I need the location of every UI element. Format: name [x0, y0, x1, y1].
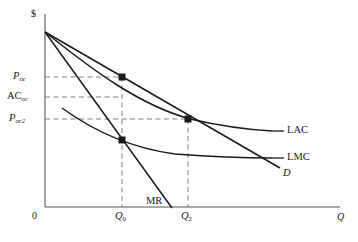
x-tick-base-q2: Q	[181, 210, 189, 221]
curve-label-mr: MR	[146, 196, 162, 207]
y-tick-sub-ac-oc: oc	[22, 95, 28, 102]
marker-demand-lac-tangency	[185, 116, 192, 123]
y-axis-unit-label: $	[31, 9, 36, 19]
curve-label-demand: D	[283, 168, 291, 179]
y-tick-base-ac-oc: AC	[7, 90, 22, 101]
x-tick-label-q0: Q0	[115, 211, 126, 222]
y-tick-label-ac-oc: ACoc	[7, 91, 28, 102]
x-tick-sub-q2: 2	[189, 215, 192, 222]
economics-diagram: $ Q 0 Poc ACoc Poc2 Q0 Q2 LAC LMC D MR	[0, 0, 358, 242]
y-tick-label-p-oc: Poc	[13, 71, 26, 82]
marker-demand-at-q0	[119, 74, 126, 81]
curve-mr	[45, 32, 172, 208]
curve-lmc	[62, 108, 272, 158]
origin-label: 0	[32, 211, 37, 221]
x-tick-label-q2: Q2	[181, 211, 192, 222]
curve-demand	[45, 32, 280, 168]
y-tick-label-p-oc2: Poc2	[9, 113, 25, 124]
curve-label-lmc: LMC	[287, 152, 310, 163]
plot-canvas	[0, 0, 358, 242]
y-tick-sub-p-oc2: oc2	[15, 117, 25, 124]
x-axis-unit-label: Q	[337, 212, 344, 222]
curve-label-lac: LAC	[287, 125, 308, 136]
marker-mr-lmc-intersection	[119, 137, 126, 144]
curve-lac	[45, 32, 272, 131]
y-tick-sub-p-oc: oc	[19, 75, 25, 82]
x-tick-sub-q0: 0	[123, 215, 126, 222]
x-tick-base-q0: Q	[115, 210, 123, 221]
